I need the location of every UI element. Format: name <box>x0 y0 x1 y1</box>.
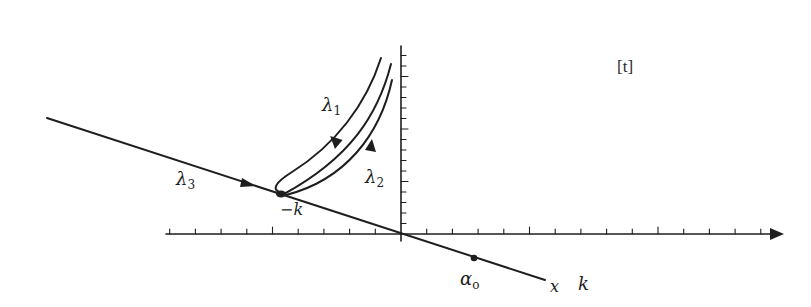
phase-diagram: [t] λ1 λ2 λ3 −k αo x k <box>0 0 811 307</box>
lambda1-label: λ1 <box>322 96 341 117</box>
alpha0-base: α <box>460 268 472 289</box>
k-axis-ticks <box>170 227 761 234</box>
lambda2-label: λ2 <box>365 168 384 189</box>
lambda3-label: λ3 <box>176 170 195 191</box>
lambda2-base: λ <box>365 166 376 187</box>
lambda2-sub: 2 <box>376 176 384 190</box>
vertical-axis-ticks <box>401 56 408 224</box>
x-line-label: x <box>550 279 559 295</box>
alpha0-label: αo <box>460 270 479 291</box>
lambda3-arrow-icon <box>240 178 256 187</box>
k-axis-label: k <box>578 275 589 293</box>
critical-point-label: −k <box>280 202 303 218</box>
x-line <box>47 118 545 280</box>
k-axis-arrowhead <box>770 228 784 240</box>
lambda3-base: λ <box>176 168 187 189</box>
lambda1-sub: 1 <box>333 104 341 118</box>
lambda3-sub: 3 <box>187 178 195 192</box>
panel-tag: [t] <box>617 58 633 75</box>
alpha0-point <box>471 255 478 262</box>
lambda1-arrow-icon <box>328 136 343 150</box>
diagram-canvas <box>0 0 811 307</box>
alpha0-sub: o <box>472 278 479 292</box>
critical-point-dot <box>276 191 286 198</box>
lambda1-base: λ <box>322 94 333 115</box>
